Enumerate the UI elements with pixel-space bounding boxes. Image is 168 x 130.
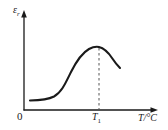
- y-axis-label: εr: [13, 5, 20, 18]
- x-axis-label: T/°C: [138, 113, 157, 123]
- y-axis-arrowhead: [21, 10, 27, 18]
- permittivity-temperature-figure: εr T/°C 0 T1: [0, 0, 168, 130]
- origin-label: 0: [17, 111, 23, 122]
- t1-subscript: 1: [98, 117, 102, 125]
- permittivity-curve: [30, 47, 120, 101]
- y-axis: [21, 10, 27, 110]
- plot-canvas: [0, 0, 168, 130]
- y-axis-subscript: r: [17, 10, 20, 18]
- t1-tick-label: T1: [92, 112, 101, 125]
